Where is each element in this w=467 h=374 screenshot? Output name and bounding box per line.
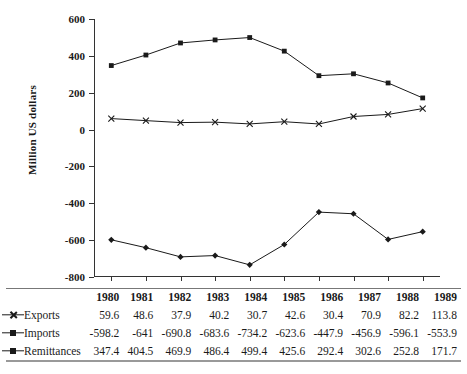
y-tick-label: -400 [65, 197, 85, 209]
table-cell: 30.7 [233, 306, 271, 324]
data-point [351, 71, 356, 76]
x-tick-mark [423, 277, 424, 281]
y-tick-label: -800 [65, 271, 85, 283]
y-tick-label: 200 [69, 87, 86, 99]
series-imports [108, 209, 426, 268]
data-point [212, 252, 218, 258]
legend-x-marker-icon [2, 310, 24, 320]
line-chart: Million US dollars 6004002000-200-400-60… [0, 0, 467, 290]
data-point [420, 229, 426, 235]
table-cell: -683.6 [195, 324, 233, 342]
legend-symbol [9, 311, 18, 320]
series-remittances [109, 35, 425, 100]
x-tick-mark [215, 277, 216, 281]
y-tick-label: 0 [80, 124, 86, 136]
y-tick-label: -600 [65, 234, 85, 246]
legend-square-marker-icon [2, 328, 24, 338]
legend-row-remittances: Remittances [6, 342, 85, 361]
table-cell: 302.6 [347, 342, 385, 361]
legend-square-marker-icon [2, 346, 24, 356]
legend-symbol [10, 330, 16, 336]
y-tick-label: 400 [69, 50, 86, 62]
data-point [420, 96, 425, 101]
legend-label: Imports [24, 327, 60, 339]
table-cell: 404.5 [123, 342, 157, 361]
header-lead-cell [6, 289, 85, 307]
table-cell: -553.9 [423, 324, 461, 342]
y-axis-title: Million US dollars [26, 45, 38, 215]
table-header-row: 1980198119821983198419851986198719881989 [6, 289, 461, 307]
table-header-year: 1981 [123, 289, 157, 307]
legend-row-exports: Exports [6, 306, 85, 324]
data-point [108, 237, 114, 243]
table-cell: 82.2 [385, 306, 423, 324]
legend-row-imports: Imports [6, 324, 85, 342]
table-cell: 469.9 [157, 342, 195, 361]
table-header-year: 1986 [309, 289, 347, 307]
series-line [111, 109, 422, 124]
table-cell: 486.4 [195, 342, 233, 361]
table-cell: -734.2 [233, 324, 271, 342]
table-row: Imports-598.2-641-690.8-683.6-734.2-623.… [6, 324, 461, 342]
x-tick-mark [319, 277, 320, 281]
table-cell: 113.8 [423, 306, 461, 324]
plot-area: 6004002000-200-400-600-800 [94, 19, 440, 277]
x-tick-mark [250, 277, 251, 281]
data-point [144, 53, 149, 58]
series-line [111, 38, 422, 98]
table-cell: 347.4 [85, 342, 123, 361]
table-cell: -623.6 [271, 324, 309, 342]
data-point [178, 41, 183, 46]
table-cell: -690.8 [157, 324, 195, 342]
table-cell: -598.2 [85, 324, 123, 342]
table-cell: 425.6 [271, 342, 309, 361]
legend-label: Remittances [24, 345, 81, 357]
legend-label: Exports [24, 309, 60, 321]
x-tick-mark [111, 277, 112, 281]
series-lines [94, 19, 440, 277]
x-tick-mark [354, 277, 355, 281]
table-cell: 48.6 [123, 306, 157, 324]
table-cell: -447.9 [309, 324, 347, 342]
table-cell: 292.4 [309, 342, 347, 361]
table-cell: 171.7 [423, 342, 461, 361]
series-line [111, 212, 422, 265]
table-cell: 37.9 [157, 306, 195, 324]
data-point [143, 245, 149, 251]
table-cell: 40.2 [195, 306, 233, 324]
data-point [247, 35, 252, 40]
y-tick-label: -200 [65, 160, 85, 172]
x-tick-mark [284, 277, 285, 281]
table-cell: 30.4 [309, 306, 347, 324]
table-cell: 70.9 [347, 306, 385, 324]
x-tick-mark [181, 277, 182, 281]
legend-symbol [10, 348, 16, 354]
table-header-year: 1980 [85, 289, 123, 307]
data-table-with-legend: 1980198119821983198419851986198719881989… [0, 288, 467, 374]
table-header-year: 1987 [347, 289, 385, 307]
data-point [247, 262, 253, 268]
table-cell: -596.1 [385, 324, 423, 342]
x-tick-mark [388, 277, 389, 281]
x-tick-mark [146, 277, 147, 281]
table-cell: 499.4 [233, 342, 271, 361]
y-tick-label: 600 [69, 13, 86, 25]
y-tick-mark [89, 277, 94, 278]
table-header-year: 1989 [423, 289, 461, 307]
data-point [109, 63, 114, 68]
table-cell: 42.6 [271, 306, 309, 324]
data-point [213, 38, 218, 43]
data-point [177, 254, 183, 260]
table-row: Exports59.648.637.940.230.742.630.470.98… [6, 306, 461, 324]
table-cell: -456.9 [347, 324, 385, 342]
table-header-year: 1985 [271, 289, 309, 307]
table-header-year: 1984 [233, 289, 271, 307]
table-header-year: 1982 [157, 289, 195, 307]
table-cell: 252.8 [385, 342, 423, 361]
table-cell: -641 [123, 324, 157, 342]
data-point [282, 49, 287, 54]
table-header-year: 1983 [195, 289, 233, 307]
table-row: Remittances347.4404.5469.9486.4499.4425.… [6, 342, 461, 361]
table-header-year: 1988 [385, 289, 423, 307]
table-cell: 59.6 [85, 306, 123, 324]
